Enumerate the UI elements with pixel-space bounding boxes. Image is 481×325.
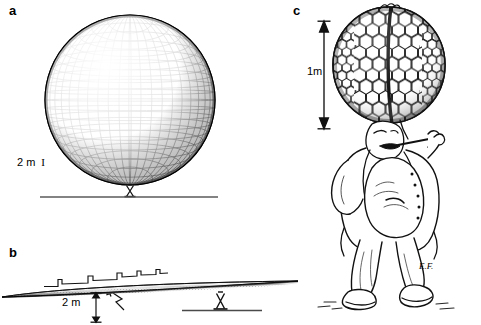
scale-label-c: 1m xyxy=(307,66,322,77)
panel-label-c: c xyxy=(293,4,300,17)
panel-b-drawing xyxy=(0,232,300,325)
panel-c-drawing xyxy=(288,0,481,325)
ground-shadow xyxy=(318,302,454,309)
scale-label-a: 2 mI xyxy=(17,157,45,168)
right-arm xyxy=(428,131,445,158)
sphere-wireframe xyxy=(45,9,215,191)
figure-body xyxy=(318,120,454,310)
panel-label-a: a xyxy=(9,4,16,17)
disc-support xyxy=(214,292,228,309)
artist-signature: E.F. xyxy=(419,262,433,271)
flattened-disc xyxy=(2,281,298,297)
panel-label-b: b xyxy=(9,246,17,259)
face xyxy=(366,121,404,159)
panel-b: b xyxy=(0,232,300,325)
scale-label-b: 2 m xyxy=(62,297,80,308)
scale-value-a: 2 m xyxy=(17,156,35,168)
panel-a: a xyxy=(0,0,290,225)
dimension-arrow-b xyxy=(91,293,102,323)
hexagon-head xyxy=(328,3,449,129)
figure-root: a xyxy=(0,0,481,325)
scale-tick-a: I xyxy=(41,156,45,168)
stepped-profile xyxy=(44,270,168,287)
panel-a-drawing xyxy=(0,0,290,225)
panel-c: c xyxy=(288,0,481,325)
sphere-support xyxy=(125,185,136,197)
torso xyxy=(340,148,439,251)
